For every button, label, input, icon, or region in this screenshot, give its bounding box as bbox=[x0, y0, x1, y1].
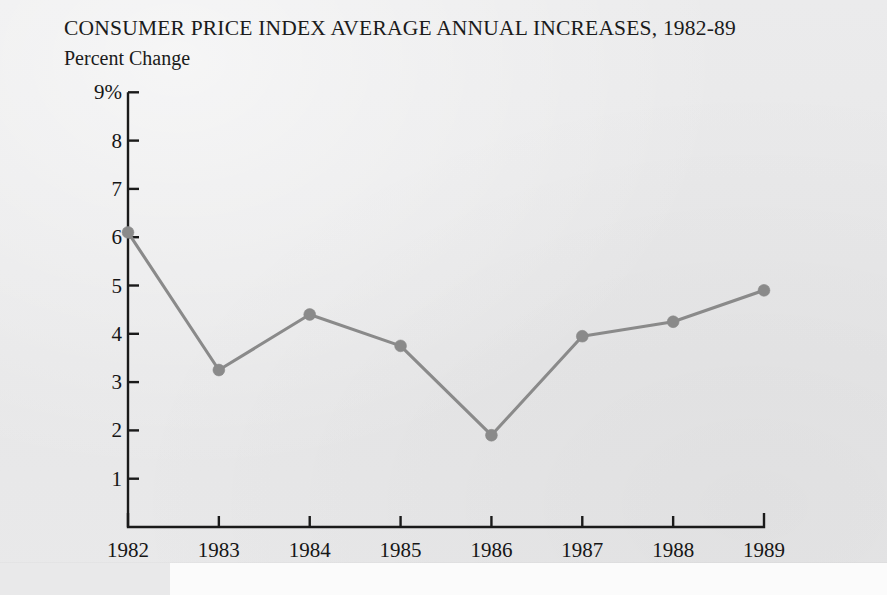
data-point-marker bbox=[304, 309, 316, 321]
data-point-marker bbox=[213, 364, 225, 376]
series-line bbox=[128, 232, 764, 435]
series-markers bbox=[122, 226, 770, 441]
x-axis-tick-label: 1987 bbox=[561, 540, 603, 561]
x-axis-ticks bbox=[219, 516, 673, 527]
page-bottom-edge-left bbox=[0, 563, 170, 595]
data-point-marker bbox=[667, 316, 679, 328]
data-point-marker bbox=[122, 226, 134, 238]
data-point-marker bbox=[758, 284, 770, 296]
data-series-group bbox=[122, 226, 770, 441]
y-axis-ticks bbox=[128, 92, 139, 478]
data-point-marker bbox=[395, 340, 407, 352]
x-axis-tick-label: 1985 bbox=[380, 540, 422, 561]
chart-figure: CONSUMER PRICE INDEX AVERAGE ANNUAL INCR… bbox=[0, 0, 887, 595]
x-axis-tick-label: 1982 bbox=[107, 540, 149, 561]
x-axis-tick-label: 1986 bbox=[470, 540, 512, 561]
data-point-marker bbox=[576, 330, 588, 342]
data-point-marker bbox=[486, 429, 498, 441]
x-axis-tick-label: 1983 bbox=[198, 540, 240, 561]
x-axis-line bbox=[128, 513, 764, 527]
x-axis-tick-label: 1984 bbox=[289, 540, 331, 561]
x-axis-tick-label: 1988 bbox=[652, 540, 694, 561]
chart-axes bbox=[128, 92, 764, 527]
line-chart-plot bbox=[0, 0, 887, 595]
x-axis-tick-label: 1989 bbox=[743, 540, 785, 561]
